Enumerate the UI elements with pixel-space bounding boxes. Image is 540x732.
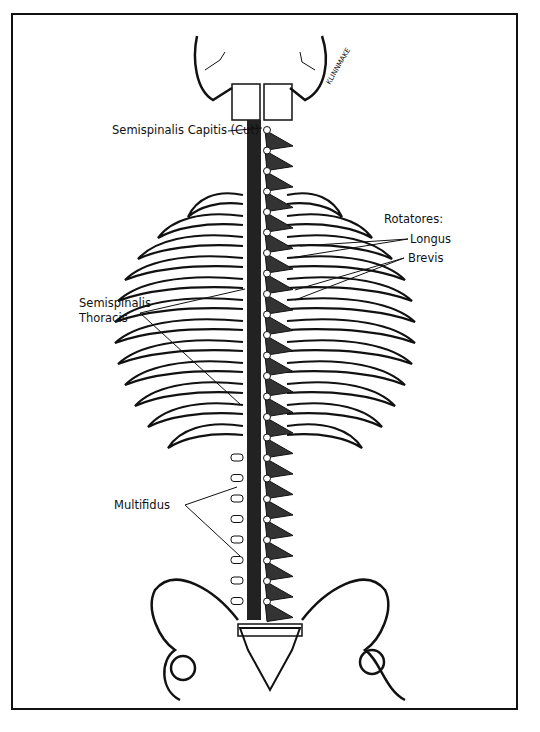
vertebra-process <box>264 598 271 605</box>
vertebra-process <box>264 209 271 216</box>
label-multifidus: Multifidus <box>114 498 170 512</box>
vertebra-process <box>264 250 271 257</box>
vertebra-process <box>264 578 271 585</box>
vertebra-process <box>264 537 271 544</box>
vertebra-process <box>264 475 271 482</box>
rib <box>138 235 243 259</box>
vertebra-process <box>264 291 271 298</box>
vertebra-process <box>264 496 271 503</box>
rib <box>125 256 243 280</box>
vertebra-process <box>264 168 271 175</box>
transverse-process <box>231 557 243 564</box>
label-rotatores-longus: Longus <box>410 232 451 246</box>
vertebra-process <box>264 229 271 236</box>
rib <box>287 235 392 259</box>
rib <box>125 361 243 385</box>
vertebra-process <box>264 332 271 339</box>
transverse-process <box>231 495 243 502</box>
transverse-process <box>231 577 243 584</box>
label-rotatores: Rotatores: <box>384 212 443 226</box>
rib <box>287 298 415 322</box>
label-semispinalis-capitis: Semispinalis Capitis (Cut) <box>112 123 259 137</box>
rib <box>287 319 415 343</box>
vertebra-process <box>264 516 271 523</box>
rib <box>287 277 412 301</box>
rib <box>287 340 412 364</box>
rib <box>168 424 243 448</box>
rib <box>287 424 362 448</box>
vertebra-process <box>264 147 271 154</box>
vertebra-process <box>264 311 271 318</box>
transverse-process <box>231 516 243 523</box>
vertebra-process <box>264 414 271 421</box>
rib <box>287 256 405 280</box>
rib <box>158 214 243 238</box>
label-semispinalis-thoracis-1: Semispinalis <box>79 296 151 310</box>
vertebra-process <box>264 434 271 441</box>
vertebra-process <box>264 270 271 277</box>
vertebra-process <box>264 127 271 134</box>
label-semispinalis-thoracis-2: Thoracis <box>79 311 128 325</box>
label-rotatores-brevis: Brevis <box>408 251 443 265</box>
transverse-process <box>231 598 243 605</box>
vertebra-process <box>264 188 271 195</box>
vertebra-process <box>264 557 271 564</box>
vertebra-process <box>264 393 271 400</box>
artist-signature: KLINNMAKE <box>325 47 352 86</box>
transverse-process <box>231 536 243 543</box>
spine-illustration: KLINNMAKE <box>0 0 540 732</box>
vertebra-process <box>264 373 271 380</box>
rib <box>287 214 372 238</box>
vertebra-process <box>264 352 271 359</box>
rib <box>287 361 405 385</box>
multifidus-column <box>247 120 261 620</box>
transverse-process <box>231 475 243 482</box>
rib <box>115 319 243 343</box>
semispinalis-capitis-cut <box>232 84 292 120</box>
vertebra-process <box>264 455 271 462</box>
rib <box>118 340 243 364</box>
transverse-process <box>231 454 243 461</box>
